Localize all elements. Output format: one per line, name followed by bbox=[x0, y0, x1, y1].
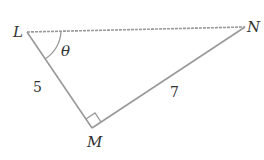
vertex-label-l: L bbox=[12, 23, 23, 41]
vertex-label-m: M bbox=[86, 133, 103, 151]
side-mn bbox=[92, 27, 245, 128]
vertex-label-n: N bbox=[246, 18, 261, 36]
side-ln bbox=[27, 27, 245, 32]
angle-arc-theta bbox=[45, 31, 61, 59]
side-label-lm: 5 bbox=[33, 79, 42, 95]
side-label-mn: 7 bbox=[170, 84, 179, 100]
angle-label-theta: θ bbox=[61, 42, 70, 60]
right-angle-marker bbox=[86, 113, 101, 122]
triangle-diagram: L N M θ 5 7 bbox=[0, 0, 264, 160]
